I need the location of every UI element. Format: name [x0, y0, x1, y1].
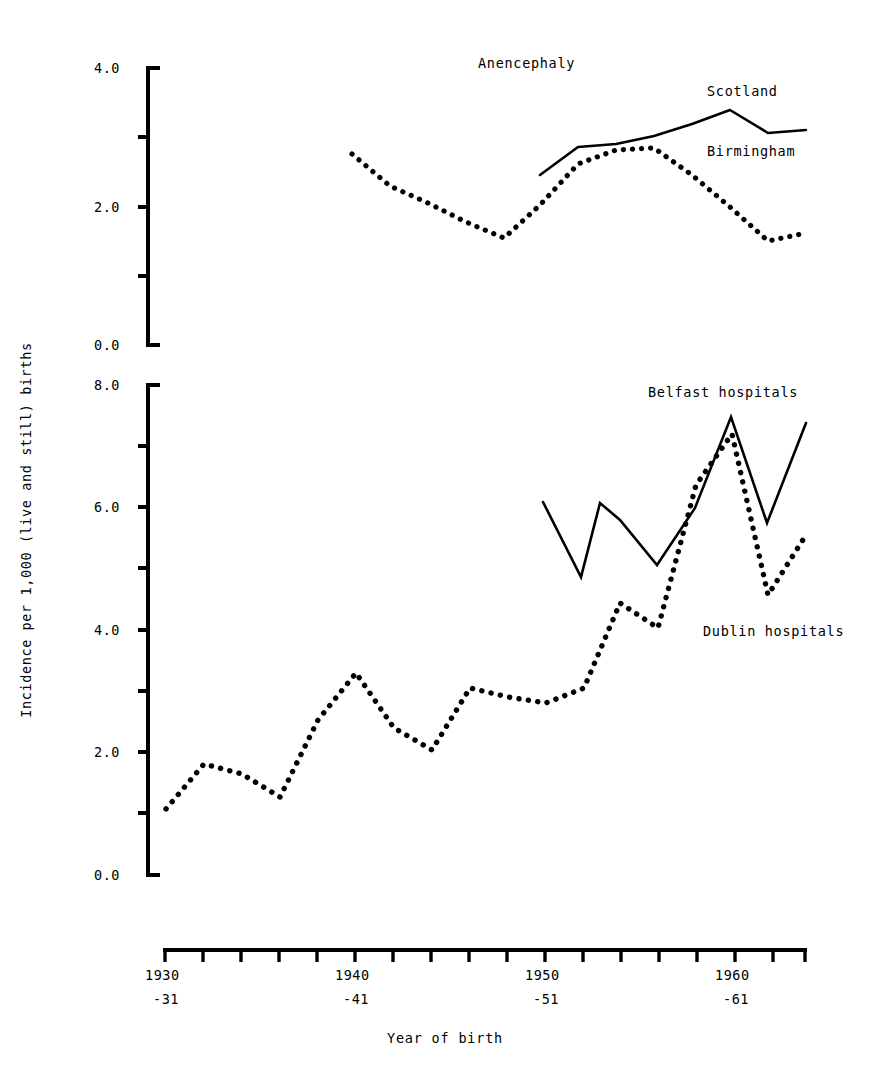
xtick-1940-line2: -41	[343, 991, 369, 1007]
series-label-birmingham: Birmingham	[707, 143, 795, 159]
series-label-belfast: Belfast hospitals	[648, 384, 798, 400]
xtick-1930-line2: -31	[153, 991, 179, 1007]
series-label-dublin: Dublin hospitals	[703, 623, 844, 639]
bottom-panel-yaxis	[138, 383, 160, 877]
x-axis-label: Year of birth	[0, 1030, 890, 1046]
bottom-ytick-2: 2.0	[70, 744, 120, 760]
chart-title: Anencephaly	[478, 55, 575, 71]
series-belfast-line	[543, 417, 806, 577]
chart-canvas	[0, 0, 890, 1090]
top-ytick-0: 0.0	[70, 337, 120, 353]
top-panel-yaxis	[138, 66, 160, 347]
xtick-1960-line2: -61	[723, 991, 749, 1007]
xtick-1950-line2: -51	[533, 991, 559, 1007]
bottom-ytick-8: 8.0	[70, 377, 120, 393]
series-birmingham-line	[352, 148, 806, 241]
xtick-1930-line1: 1930	[145, 967, 180, 983]
top-ytick-2: 2.0	[70, 199, 120, 215]
series-label-scotland: Scotland	[707, 83, 778, 99]
y-axis-label: Incidence per 1,000 (live and still) bir…	[18, 300, 34, 760]
xaxis	[163, 950, 807, 962]
series-dublin-line	[166, 434, 806, 809]
bottom-ytick-0: 0.0	[70, 867, 120, 883]
bottom-ytick-6: 6.0	[70, 499, 120, 515]
xtick-1960-line1: 1960	[715, 967, 750, 983]
anencephaly-figure: 4.0 2.0 0.0 8.0 6.0 4.0 2.0 0.0 1930 -31…	[0, 0, 890, 1090]
bottom-ytick-4: 4.0	[70, 622, 120, 638]
xtick-1950-line1: 1950	[525, 967, 560, 983]
top-ytick-4: 4.0	[70, 60, 120, 76]
xtick-1940-line1: 1940	[335, 967, 370, 983]
